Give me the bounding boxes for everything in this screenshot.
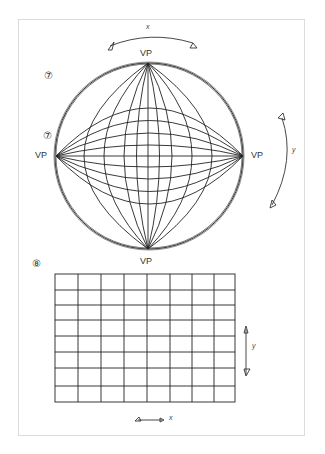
grid-axis-y-label: y	[252, 342, 256, 349]
vp-right-label: VP	[251, 150, 263, 160]
y-rotation-arrow-right	[270, 113, 287, 208]
step-8-label: ⑧	[32, 258, 41, 269]
sphere-grid	[54, 62, 244, 250]
grid-axis-x-label: x	[169, 414, 173, 421]
grid-x-arrow	[135, 417, 164, 422]
axis-y-label-right: y	[292, 146, 296, 153]
vp-top-label: VP	[140, 48, 152, 58]
vp-bottom-label: VP	[140, 256, 152, 266]
step-7-label: ⑦	[44, 70, 53, 81]
sketch-canvas	[0, 0, 325, 454]
flat-grid	[55, 274, 235, 402]
grid-y-arrow	[244, 326, 250, 376]
x-rotation-arrow-top	[108, 37, 197, 50]
vp-left-label: VP	[35, 150, 47, 160]
step-7-label-2: ⑦	[43, 130, 52, 141]
axis-x-label-top: x	[146, 23, 150, 30]
